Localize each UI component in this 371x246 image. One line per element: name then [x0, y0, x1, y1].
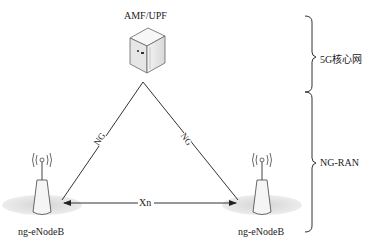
core-network-label: 5G核心网: [320, 51, 362, 66]
brace-core: [305, 16, 316, 92]
core-label: AMF/UPF: [124, 10, 167, 21]
xn-label: Xn: [139, 197, 151, 208]
brace-ran: [305, 92, 316, 232]
diagram-canvas: [0, 0, 371, 246]
ran-label: NG-RAN: [320, 157, 359, 168]
node-right-label: ng-eNodeB: [238, 226, 284, 237]
node-left-label: ng-eNodeB: [18, 226, 64, 237]
server-icon: [130, 28, 165, 73]
base-station-icon: [33, 153, 52, 215]
base-station-icon: [253, 153, 272, 215]
